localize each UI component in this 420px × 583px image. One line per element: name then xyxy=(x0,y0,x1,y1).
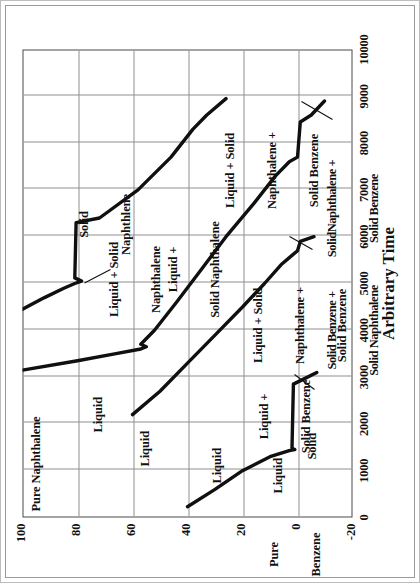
xtick-10000: 10000 xyxy=(356,19,371,79)
annotation-pure-naphthalene: Pure Naphthalene xyxy=(28,416,42,511)
x-axis-title: Arbitrary Time xyxy=(378,49,398,517)
annotation-eutectic-2-line2: Naphthalene + xyxy=(264,113,278,227)
annotation-liquid-solid-naph-2-line1: Liquid + xyxy=(165,203,179,335)
ytick-40: 40 xyxy=(178,523,193,565)
annotation-solid-naphthalene-line2: Naphthlene xyxy=(118,176,132,272)
annotation-solid-naphthalene-line1: Solid xyxy=(76,176,90,272)
annotation-pure-benzene-line2: Benzene xyxy=(308,523,322,583)
cooling-curves-figure: Pure Naphthalene Liquid Liquid + Solid N… xyxy=(4,4,416,579)
annotation-solid-4: Solid xyxy=(304,432,318,459)
rotated-figure-container: Pure Naphthalene Liquid Liquid + Solid N… xyxy=(4,4,416,579)
annotation-pure-benzene-line1: Pure xyxy=(266,523,280,583)
ytick-60: 60 xyxy=(123,523,138,565)
annotation-liquid-3: Liquid xyxy=(209,447,223,483)
annotation-liquid-2: Liquid xyxy=(137,430,151,466)
ytick--20: -20 xyxy=(343,523,358,565)
annotation-liquid-1: Liquid xyxy=(90,396,104,432)
screenshot-page: Pure Naphthalene Liquid Liquid + Solid N… xyxy=(0,0,420,583)
annotation-solid-2-line1: SolidNaphthalene + xyxy=(324,137,338,279)
ytick-20: 20 xyxy=(233,523,248,565)
ytick-100: 100 xyxy=(13,523,28,565)
annotation-eutectic-2-line1: Liquid + Solid xyxy=(222,113,236,227)
ytick-0: 0 xyxy=(288,523,303,565)
annotation-liquid-solid-benzene-line1: Liquid + xyxy=(256,363,270,469)
scan-frame: Pure Naphthalene Liquid Liquid + Solid N… xyxy=(5,5,415,578)
ytick-80: 80 xyxy=(68,523,83,565)
